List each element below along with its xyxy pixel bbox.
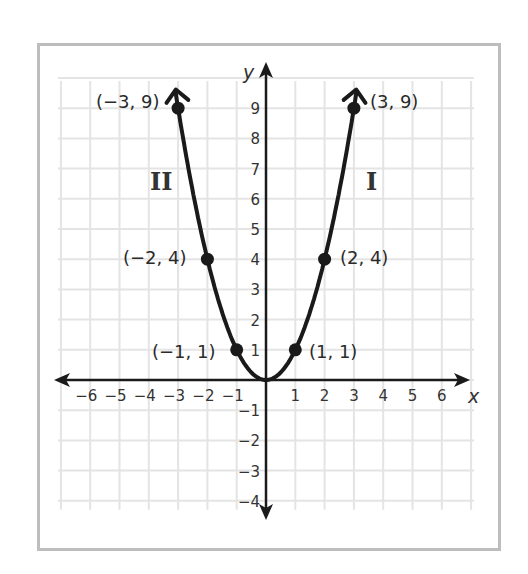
point-label-neg1-1: (−1, 1) <box>152 341 215 362</box>
y-tick-label: 7 <box>250 161 260 179</box>
point-label-2-4: (2, 4) <box>340 247 388 268</box>
y-tick-label: 2 <box>250 312 260 330</box>
y-tick-label: 8 <box>250 130 260 148</box>
point-label-3-9: (3, 9) <box>370 91 418 112</box>
data-point <box>172 102 185 115</box>
y-tick-label: −3 <box>238 463 260 481</box>
x-tick-label: −2 <box>192 387 214 405</box>
x-tick-label: 5 <box>408 387 418 405</box>
x-tick-label: −3 <box>163 387 185 405</box>
point-label-neg3-9: (−3, 9) <box>96 91 159 112</box>
data-point <box>201 253 214 266</box>
axes <box>54 62 470 520</box>
y-tick-label: 1 <box>250 342 260 360</box>
x-axis-label: x <box>467 385 480 407</box>
quadrant-label-i: I <box>366 167 377 196</box>
y-tick-label: 3 <box>250 281 260 299</box>
data-point <box>289 343 302 356</box>
y-tick-label: 6 <box>250 191 260 209</box>
tick-labels: −6−5−4−3−2−1123456987654321−1−2−3−4 <box>75 100 446 511</box>
point-label-1-1: (1, 1) <box>309 341 357 362</box>
x-tick-label: 6 <box>437 387 447 405</box>
x-tick-label: −5 <box>104 387 126 405</box>
x-tick-label: 1 <box>291 387 301 405</box>
data-point <box>347 102 360 115</box>
y-tick-label: 5 <box>250 221 260 239</box>
y-axis-label: y <box>242 61 255 83</box>
y-tick-label: 4 <box>250 251 260 269</box>
y-tick-label: −2 <box>238 432 260 450</box>
data-point <box>230 343 243 356</box>
x-tick-label: −4 <box>134 387 156 405</box>
y-tick-label: −4 <box>238 493 260 511</box>
parabola-chart: −6−5−4−3−2−1123456987654321−1−2−3−4 x y … <box>0 0 528 574</box>
y-tick-label: 9 <box>250 100 260 118</box>
x-tick-label: 2 <box>320 387 330 405</box>
x-tick-label: 4 <box>378 387 388 405</box>
x-tick-label: −6 <box>75 387 97 405</box>
y-tick-label: −1 <box>238 402 260 420</box>
x-tick-label: 3 <box>349 387 359 405</box>
quadrant-label-ii: II <box>150 167 172 196</box>
data-point <box>318 253 331 266</box>
point-label-neg2-4: (−2, 4) <box>123 247 186 268</box>
